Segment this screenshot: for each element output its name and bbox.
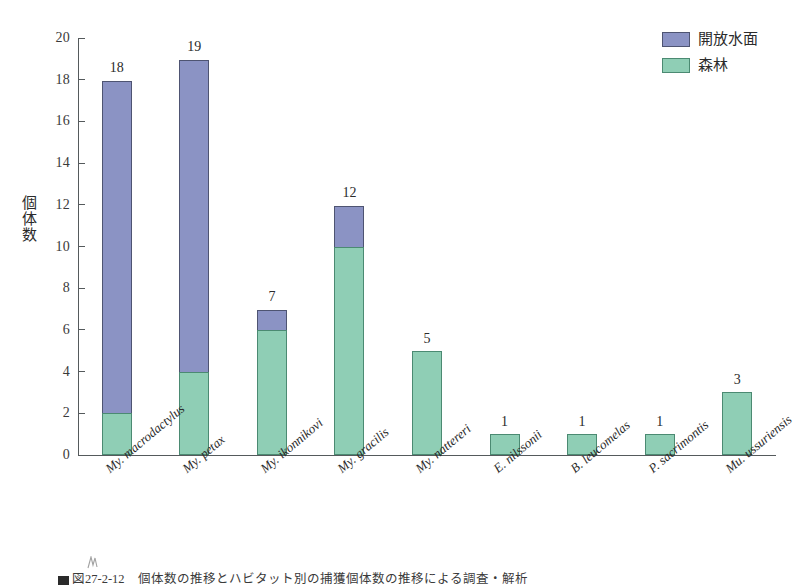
bar-value-label: 7 <box>268 290 275 304</box>
bar-value-label: 1 <box>501 415 508 429</box>
figure-caption: 図27-2-12 個体数の推移とハビタット別の捕獲個体数の推移による調査・解析 <box>58 571 528 588</box>
y-tick-label-12: 12 <box>38 198 70 212</box>
bar-segment-water <box>257 310 287 331</box>
y-tick-label-2: 2 <box>38 406 70 420</box>
caption-bullet-icon <box>58 576 69 585</box>
bar-value-label: 12 <box>342 186 356 200</box>
chart-legend: 開放水面 森林 <box>662 28 782 80</box>
scan-artifact-icon <box>86 556 100 570</box>
bar-value-label: 19 <box>187 40 201 54</box>
bar-group <box>257 310 287 455</box>
bar-value-label: 18 <box>110 61 124 75</box>
bar-segment-forest <box>334 247 364 456</box>
bar-value-label: 1 <box>656 415 663 429</box>
figure-caption-area: 図27-2-12 個体数の推移とハビタット別の捕獲個体数の推移による調査・解析 <box>0 571 787 588</box>
bar-series-layer <box>78 38 775 455</box>
y-tick-label-10: 10 <box>38 240 70 254</box>
caption-text: 図27-2-12 個体数の推移とハビタット別の捕獲個体数の推移による調査・解析 <box>72 572 528 586</box>
legend-item-water: 開放水面 <box>662 28 782 50</box>
bar-value-label: 3 <box>734 373 741 387</box>
y-tick-label-6: 6 <box>38 323 70 337</box>
y-tick-label-20: 20 <box>38 31 70 45</box>
y-tick-label-0: 0 <box>38 448 70 462</box>
legend-label-water: 開放水面 <box>698 32 758 47</box>
y-tick-label-8: 8 <box>38 281 70 295</box>
legend-item-forest: 森林 <box>662 54 782 76</box>
bar-segment-water <box>334 206 364 248</box>
bar-segment-forest <box>257 330 287 455</box>
y-axis-title: 個体数 <box>20 195 35 243</box>
legend-swatch-forest-icon <box>662 58 690 73</box>
bar-segment-forest <box>412 351 442 455</box>
bar-segment-water <box>102 81 132 415</box>
bar-value-label: 5 <box>424 332 431 346</box>
bar-segment-water <box>179 60 209 373</box>
legend-swatch-water-icon <box>662 32 690 47</box>
bar-group <box>102 81 132 455</box>
y-tick-label-18: 18 <box>38 73 70 87</box>
bar-group <box>179 60 209 455</box>
bar-group <box>334 206 364 455</box>
y-tick-label-14: 14 <box>38 156 70 170</box>
legend-label-forest: 森林 <box>698 58 728 73</box>
bar-group <box>412 351 442 455</box>
y-tick-label-16: 16 <box>38 114 70 128</box>
y-tick-label-4: 4 <box>38 365 70 379</box>
bar-value-label: 1 <box>579 415 586 429</box>
